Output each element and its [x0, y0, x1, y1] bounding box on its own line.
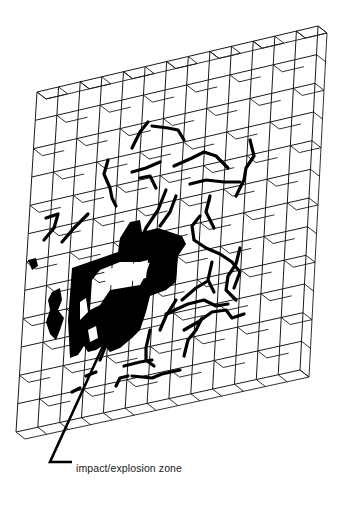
- grid-line: [126, 188, 148, 193]
- grid-line: [275, 36, 284, 43]
- grid-line: [184, 142, 193, 149]
- grid-line: [80, 82, 89, 89]
- crack: [184, 310, 244, 330]
- grid-line: [36, 264, 58, 269]
- grid-line: [43, 151, 65, 156]
- crack: [182, 282, 206, 300]
- grid-line: [188, 57, 197, 64]
- grid-line: [124, 72, 133, 79]
- grid-line: [20, 375, 29, 382]
- grid-line: [270, 122, 279, 129]
- grid-line: [213, 389, 222, 396]
- grid-line: [100, 105, 109, 112]
- grid-line: [207, 109, 216, 116]
- grid-line: [86, 141, 108, 146]
- grid-line: [239, 77, 261, 82]
- grid-line: [160, 176, 169, 183]
- grid-line: [149, 154, 171, 159]
- crack: [132, 370, 180, 378]
- grid-line: [79, 254, 101, 259]
- grid-line: [143, 95, 152, 102]
- grid-line: [177, 256, 186, 263]
- grid-line: [29, 378, 51, 383]
- grid-line: [250, 272, 272, 277]
- grid-line: [106, 164, 128, 169]
- grid-line: [315, 83, 324, 90]
- crack: [62, 214, 88, 242]
- grid-line: [279, 124, 301, 129]
- grid-line: [281, 318, 290, 325]
- grid-line: [232, 46, 241, 53]
- debris-left: [46, 288, 64, 340]
- grid-line: [258, 351, 267, 358]
- grid-line: [102, 221, 124, 226]
- grid-line: [303, 313, 312, 320]
- grid-line: [299, 148, 321, 153]
- grid-line: [66, 117, 88, 122]
- crack: [132, 122, 148, 148]
- grid-line: [174, 313, 183, 320]
- grid-line: [59, 87, 68, 94]
- grid-line: [203, 339, 225, 344]
- grid-line: [196, 87, 218, 92]
- grid-line: [264, 237, 273, 244]
- grid-line: [93, 219, 102, 226]
- grid-line: [159, 349, 181, 354]
- grid-line: [259, 100, 281, 105]
- grid-line: [23, 319, 32, 326]
- grid-line: [267, 179, 276, 186]
- grid-line: [137, 209, 146, 216]
- grid-line: [223, 363, 245, 368]
- grid-line: [102, 77, 111, 84]
- grid-line: [49, 401, 71, 406]
- grid-line: [216, 110, 238, 115]
- grid-line: [210, 51, 219, 58]
- grid-line: [236, 134, 258, 139]
- grid-line: [318, 26, 327, 33]
- grid-line: [43, 342, 52, 349]
- grid-line: [302, 341, 311, 348]
- grid-line: [262, 43, 284, 48]
- grid-line: [63, 366, 72, 373]
- grid-line: [273, 239, 295, 244]
- grid-line: [107, 356, 116, 363]
- grid-line: [241, 270, 250, 277]
- grid-line: [276, 181, 298, 186]
- grid-line: [38, 427, 47, 434]
- grid-line: [73, 195, 82, 202]
- grid-line: [300, 370, 309, 377]
- grid-line: [70, 252, 79, 259]
- grid-line: [30, 141, 312, 206]
- grid-line: [213, 168, 235, 173]
- grid-line: [312, 141, 321, 148]
- grid-front-face: [16, 26, 318, 432]
- grid-line: [284, 260, 293, 267]
- grid-line: [103, 413, 112, 420]
- grid-line: [311, 169, 320, 176]
- grid-line: [18, 341, 302, 403]
- grid-line: [309, 198, 318, 205]
- grid-line: [125, 408, 134, 415]
- grid-line: [25, 377, 309, 439]
- crack: [190, 180, 240, 184]
- grid-line: [16, 370, 300, 432]
- grid-line: [39, 207, 61, 212]
- grid-line: [235, 384, 244, 391]
- grid-line: [92, 392, 114, 397]
- grid-line: [34, 149, 43, 156]
- grid-line: [282, 67, 304, 72]
- grid-line: [308, 227, 317, 234]
- grid-line: [176, 64, 198, 69]
- grid-line: [35, 55, 316, 121]
- crack: [206, 196, 214, 228]
- grid-line: [250, 98, 259, 105]
- callout-leader-line: [50, 335, 108, 462]
- grid-line: [34, 83, 316, 148]
- grid-line: [244, 213, 253, 220]
- grid-line: [296, 31, 305, 38]
- grid-line: [40, 399, 49, 406]
- crack: [152, 126, 184, 140]
- grid-line: [273, 65, 282, 72]
- grid-line: [293, 262, 315, 267]
- crack: [72, 388, 80, 392]
